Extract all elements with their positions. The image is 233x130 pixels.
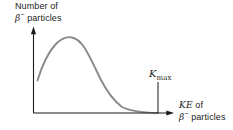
x-axis-label-line2: β− particles (179, 112, 226, 124)
ke-symbol: KE (179, 100, 193, 110)
kmax-subscript: max (156, 74, 171, 82)
kmax-annotation-label: Kmax (149, 68, 172, 79)
beta-spectrum-figure: Number of β− particles KE of β− particle… (0, 0, 233, 130)
spectrum-curve (38, 37, 158, 113)
x-axis-label: KE of β− particles (179, 100, 226, 123)
y-axis-label-line2: β− particles (15, 13, 62, 25)
x-axis-label-particles: particles (191, 112, 225, 122)
x-axis-label-of: of (195, 100, 203, 110)
beta-superscript: − (20, 11, 24, 18)
y-axis-label: Number of β− particles (15, 1, 62, 24)
x-axis-arrowhead (166, 110, 174, 115)
beta-superscript: − (184, 110, 188, 117)
y-axis-arrowhead (31, 27, 36, 35)
y-axis-label-particles: particles (27, 13, 61, 23)
